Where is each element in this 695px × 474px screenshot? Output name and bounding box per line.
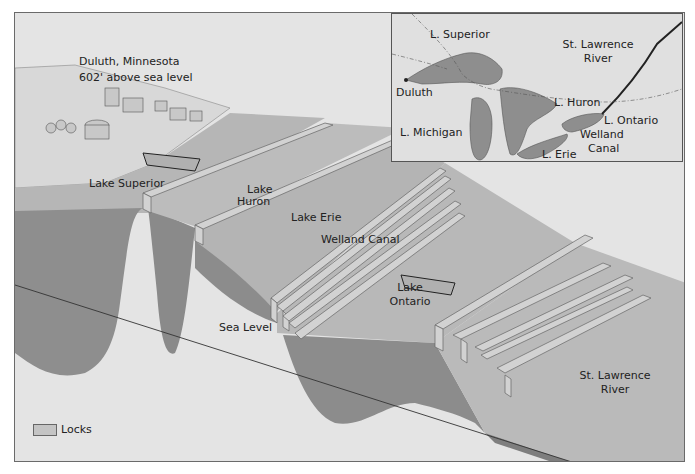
inset-superior-label: L. Superior [430,28,490,41]
inset-map: L. Superior Duluth L. Michigan L. Huron … [391,13,683,162]
legend-locks-label: Locks [61,423,92,436]
origin-city-label: Duluth, Minnesota [79,55,180,68]
lake-superior-label: Lake Superior [89,177,165,190]
legend: Locks [33,423,92,436]
sea-level-label: Sea Level [219,321,272,334]
inset-welland-label-line2: Canal [588,142,619,155]
locks-swatch-icon [33,424,57,436]
origin-elevation-label: 602' above sea level [79,71,193,84]
lake-erie-label: Lake Erie [291,211,341,224]
inset-welland-label-line1: Welland [580,128,624,141]
inset-huron-label: L. Huron [554,96,600,109]
lake-huron-label-line2: Huron [237,195,270,208]
st-lawrence-label-line2: River [575,383,655,396]
inset-duluth-label: Duluth [396,86,433,99]
inset-erie-label: L. Erie [542,148,576,161]
st-lawrence-label-line1: St. Lawrence [575,369,655,382]
lake-ontario-label-line1: Lake [390,281,430,294]
inset-ontario-label: L. Ontario [604,114,658,127]
lake-ontario-label-line2: Ontario [387,295,433,308]
inset-michigan-label: L. Michigan [400,126,462,139]
diagram-frame: Duluth, Minnesota 602' above sea level L… [14,12,685,462]
inset-st-lawrence-label-line1: St. Lawrence [558,38,638,51]
welland-canal-label: Welland Canal [321,233,400,246]
inset-st-lawrence-label-line2: River [558,52,638,65]
